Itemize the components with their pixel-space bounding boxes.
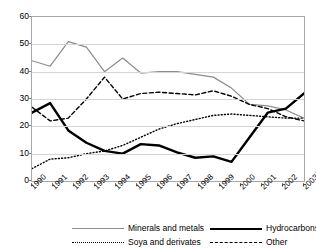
legend-swatch [210,242,262,246]
gridline [32,44,304,45]
legend-swatch [72,228,124,232]
legend-swatch [72,242,124,246]
y-axis-tick-label: 50 [3,39,29,47]
gridline [32,99,304,100]
y-axis-tick-label: 20 [3,121,29,129]
y-axis-tick-label: 30 [3,94,29,102]
legend-label: Hydrocarbons [266,223,316,233]
legend: Minerals and metalsHydrocarbonsSoya and … [0,224,316,252]
gridlines [32,17,304,181]
plot-area [31,16,305,182]
legend-label: Minerals and metals [128,223,204,233]
gridline [32,126,304,127]
gridline [32,72,304,73]
y-axis: 6050403020100 [0,0,29,182]
line-chart: 6050403020100 19901991199219931994199519… [0,0,316,252]
y-axis-tick-label: 40 [3,67,29,75]
legend-label: Soya and derivates [128,237,201,247]
x-axis: 1990199119921993199419951996199719981999… [31,183,305,219]
legend-label: Other [266,237,287,247]
gridline [32,154,304,155]
cropped-title [0,0,316,9]
y-axis-tick-label: 10 [3,149,29,157]
y-axis-tick-label: 60 [3,12,29,20]
legend-swatch [210,228,262,233]
y-axis-tick-label: 0 [3,176,29,184]
